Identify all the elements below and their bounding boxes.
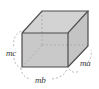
height-label: mc [6, 48, 16, 58]
geometry-figure: mc mb ma [0, 0, 99, 89]
box-diagram-canvas: mc mb ma [0, 0, 99, 89]
depth-label: ma [80, 58, 91, 68]
box-face-front [22, 33, 68, 67]
width-label: mb [35, 75, 46, 85]
